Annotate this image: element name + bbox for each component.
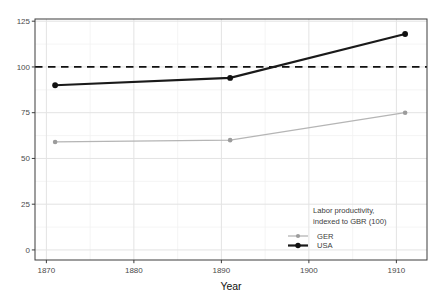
y-tick-label-25: 25	[21, 200, 30, 209]
usa-point-1871	[52, 82, 58, 88]
y-tick-label-75: 75	[21, 108, 30, 117]
labor-productivity-line-chart: 187018801890190019100255075100125YearLab…	[0, 0, 444, 299]
legend-title-line2: indexed to GBR (100)	[313, 217, 387, 226]
ger-point-1891	[228, 138, 233, 143]
ger-point-1871	[53, 140, 58, 145]
y-tick-label-0: 0	[26, 246, 31, 255]
ger-point-1911	[403, 110, 408, 115]
legend-label-usa: USA	[317, 241, 334, 250]
chart-figure: 187018801890190019100255075100125YearLab…	[0, 0, 444, 299]
x-tick-label-1900: 1900	[300, 266, 318, 275]
legend-key-marker-usa	[295, 243, 300, 248]
y-tick-label-100: 100	[17, 63, 31, 72]
legend-key-marker-ger	[296, 234, 300, 238]
y-tick-label-50: 50	[21, 154, 30, 163]
x-tick-label-1880: 1880	[125, 266, 143, 275]
y-tick-label-125: 125	[17, 17, 31, 26]
usa-point-1891	[227, 75, 233, 81]
x-axis-title: Year	[220, 280, 242, 292]
usa-point-1911	[402, 31, 408, 37]
legend-title-line1: Labor productivity,	[313, 206, 374, 215]
x-tick-label-1890: 1890	[212, 266, 230, 275]
x-tick-label-1910: 1910	[387, 266, 405, 275]
x-tick-label-1870: 1870	[37, 266, 55, 275]
legend-label-ger: GER	[317, 232, 334, 241]
